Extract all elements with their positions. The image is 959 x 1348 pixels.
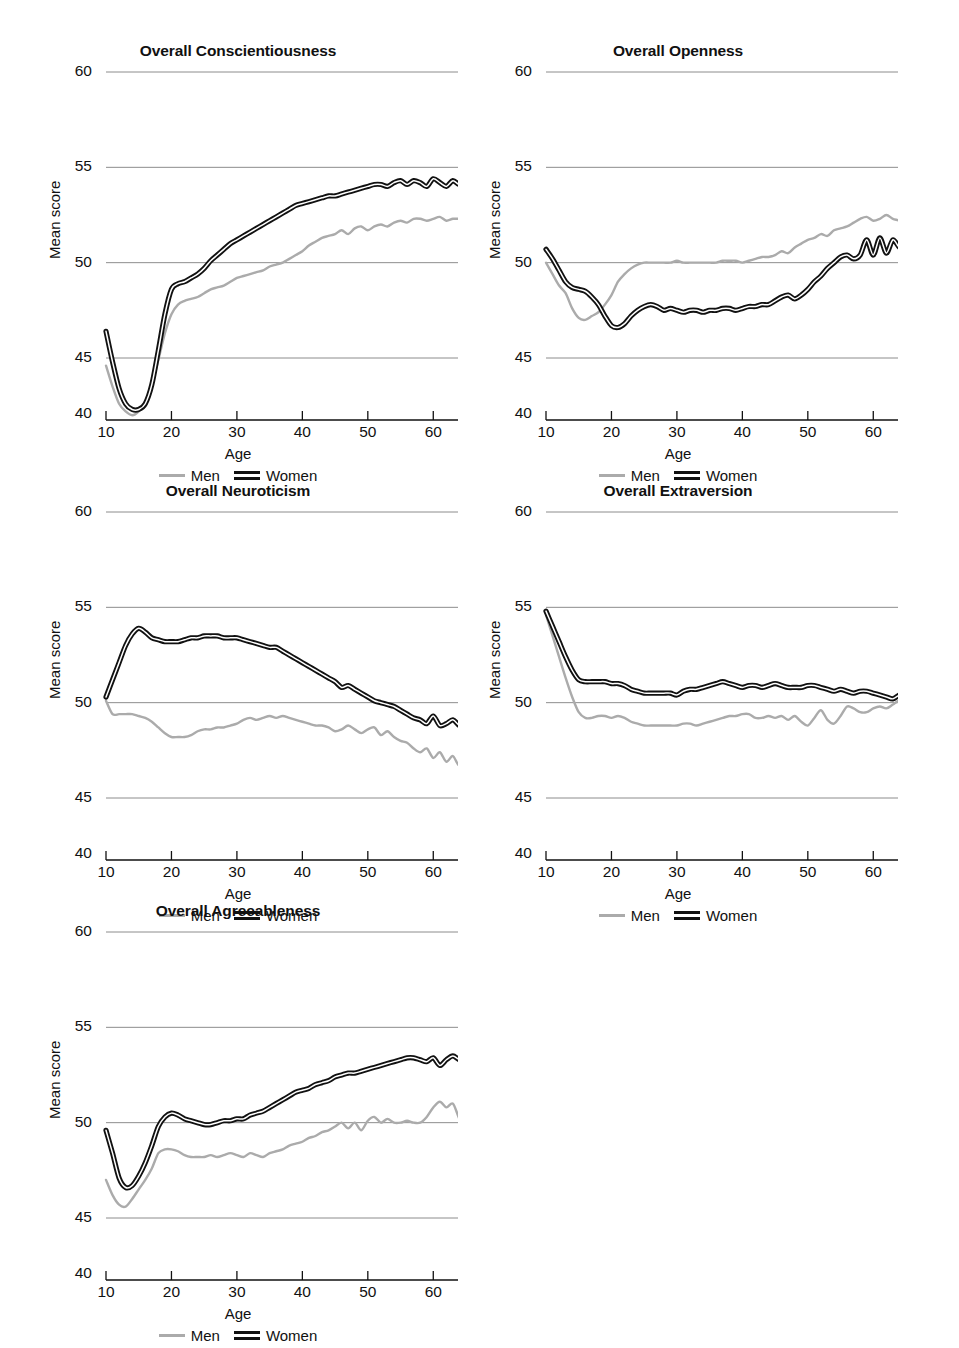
y-tick-label-40: 40: [40, 844, 92, 862]
x-tick-label-30: 30: [655, 863, 699, 881]
figure-panel-grid: Overall ConscientiousnessMean score60555…: [0, 0, 959, 1348]
y-tick-label-45: 45: [480, 348, 532, 366]
legend-label-men: Men: [191, 1328, 220, 1343]
series-line-women-outer: [546, 238, 898, 328]
chart-panel-overall-agreeableness: Overall AgreeablenessMean score605550454…: [18, 900, 458, 1320]
x-axis-label: Age: [18, 445, 458, 462]
legend-swatch-women-icon: [234, 471, 260, 480]
y-tick-label-45: 45: [480, 788, 532, 806]
x-tick-label-30: 30: [215, 423, 259, 441]
x-tick-label-20: 20: [589, 863, 633, 881]
y-tick-label-60: 60: [40, 502, 92, 520]
y-tick-label-40: 40: [40, 404, 92, 422]
x-axis-label: Age: [18, 1305, 458, 1322]
y-tick-label-50: 50: [40, 693, 92, 711]
x-tick-label-60: 60: [411, 423, 455, 441]
legend-item-men: Men: [159, 1328, 220, 1343]
legend-item-women: Women: [674, 908, 757, 923]
legend-swatch-men-icon: [599, 474, 625, 477]
y-tick-label-50: 50: [480, 253, 532, 271]
y-tick-label-40: 40: [480, 844, 532, 862]
chart-panel-overall-conscientiousness: Overall ConscientiousnessMean score60555…: [18, 40, 458, 460]
series-line-women-core: [106, 628, 458, 727]
y-tick-label-55: 55: [40, 1017, 92, 1035]
y-tick-label-40: 40: [480, 404, 532, 422]
x-axis-label: Age: [458, 445, 898, 462]
legend-swatch-men-icon: [599, 914, 625, 917]
x-tick-label-10: 10: [524, 423, 568, 441]
series-line-men: [106, 1102, 458, 1207]
x-tick-label-40: 40: [720, 423, 764, 441]
x-axis-label: Age: [458, 885, 898, 902]
series-line-men: [106, 217, 458, 415]
y-tick-label-55: 55: [480, 597, 532, 615]
y-tick-label-50: 50: [40, 1113, 92, 1131]
legend-item-men: Men: [599, 908, 660, 923]
y-tick-label-55: 55: [40, 597, 92, 615]
plot-area-overall-agreeableness: [18, 900, 458, 1320]
x-tick-label-10: 10: [84, 423, 128, 441]
y-tick-label-45: 45: [40, 348, 92, 366]
x-tick-label-20: 20: [149, 423, 193, 441]
series-line-women-core: [106, 179, 458, 410]
x-tick-label-50: 50: [346, 1283, 390, 1301]
y-tick-label-45: 45: [40, 1208, 92, 1226]
x-tick-label-50: 50: [346, 863, 390, 881]
x-tick-label-40: 40: [280, 863, 324, 881]
x-tick-label-40: 40: [280, 1283, 324, 1301]
x-tick-label-50: 50: [786, 423, 830, 441]
x-tick-label-60: 60: [851, 423, 895, 441]
legend-swatch-women-icon: [674, 471, 700, 480]
series-line-women-outer: [546, 611, 898, 699]
legend-label-men: Men: [631, 908, 660, 923]
legend-swatch-men-icon: [159, 1334, 185, 1337]
legend-item-women: Women: [234, 1328, 317, 1343]
legend: MenWomen: [458, 908, 898, 923]
x-tick-label-10: 10: [84, 863, 128, 881]
x-tick-label-60: 60: [851, 863, 895, 881]
x-tick-label-10: 10: [84, 1283, 128, 1301]
series-line-women-core: [546, 611, 898, 699]
series-line-women-core: [546, 238, 898, 328]
x-tick-label-60: 60: [411, 863, 455, 881]
x-tick-label-30: 30: [215, 863, 259, 881]
y-tick-label-60: 60: [480, 62, 532, 80]
y-tick-label-60: 60: [40, 62, 92, 80]
x-tick-label-40: 40: [720, 863, 764, 881]
x-tick-label-60: 60: [411, 1283, 455, 1301]
plot-area-overall-extraversion: [458, 480, 898, 900]
y-tick-label-50: 50: [480, 693, 532, 711]
legend: MenWomen: [18, 1328, 458, 1343]
y-tick-label-40: 40: [40, 1264, 92, 1282]
x-tick-label-10: 10: [524, 863, 568, 881]
x-tick-label-30: 30: [655, 423, 699, 441]
series-line-men: [546, 615, 898, 726]
y-tick-label-55: 55: [40, 157, 92, 175]
x-tick-label-20: 20: [149, 1283, 193, 1301]
legend-swatch-men-icon: [159, 474, 185, 477]
x-tick-label-40: 40: [280, 423, 324, 441]
legend-swatch-women-icon: [234, 1331, 260, 1340]
chart-panel-overall-openness: Overall OpennessMean score60555045401020…: [458, 40, 898, 460]
x-tick-label-50: 50: [786, 863, 830, 881]
plot-area-overall-neuroticism: [18, 480, 458, 900]
x-tick-label-50: 50: [346, 423, 390, 441]
chart-panel-overall-neuroticism: Overall NeuroticismMean score60555045401…: [18, 480, 458, 900]
x-tick-label-20: 20: [149, 863, 193, 881]
y-tick-label-50: 50: [40, 253, 92, 271]
legend-label-women: Women: [706, 908, 757, 923]
y-tick-label-45: 45: [40, 788, 92, 806]
y-tick-label-60: 60: [40, 922, 92, 940]
plot-area-overall-conscientiousness: [18, 40, 458, 460]
plot-area-overall-openness: [458, 40, 898, 460]
x-tick-label-30: 30: [215, 1283, 259, 1301]
y-tick-label-55: 55: [480, 157, 532, 175]
x-tick-label-20: 20: [589, 423, 633, 441]
chart-panel-overall-extraversion: Overall ExtraversionMean score6055504540…: [458, 480, 898, 900]
legend-label-women: Women: [266, 1328, 317, 1343]
legend-swatch-women-icon: [674, 911, 700, 920]
y-tick-label-60: 60: [480, 502, 532, 520]
